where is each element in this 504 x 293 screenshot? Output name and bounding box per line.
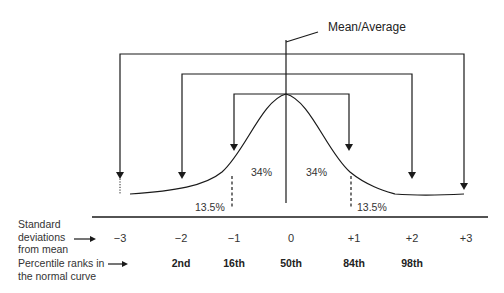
percentile-16th: 16th <box>223 257 245 269</box>
pr-label-line-2: the normal curve <box>18 270 104 283</box>
sd-value-plus2: +2 <box>406 232 419 244</box>
sd-value-minus2: −2 <box>175 232 188 244</box>
bracket-inner <box>234 94 349 144</box>
standard-deviations-row-label: Standard deviations from mean <box>18 218 68 256</box>
sd-label-line-3: from mean <box>18 243 68 256</box>
sd-value-minus1: −1 <box>228 232 241 244</box>
region-label-center-left: 34% <box>251 166 272 178</box>
region-label-outer-left: 13.5% <box>195 201 225 213</box>
region-label-center-right: 34% <box>306 166 327 178</box>
sd-value-plus1: +1 <box>348 232 361 244</box>
arrowhead-outer-left <box>116 172 124 179</box>
normal-curve-diagram <box>0 0 504 293</box>
arrowhead-pr-row <box>122 261 128 267</box>
pr-label-line-1: Percentile ranks in <box>18 257 104 270</box>
arrowhead-sd-row <box>90 236 96 242</box>
sd-value-minus3: −3 <box>114 232 127 244</box>
arrowhead-middle-left <box>178 172 186 179</box>
sd-value-0: 0 <box>288 232 294 244</box>
sd-label-line-2: deviations <box>18 231 68 244</box>
arrowhead-middle-right <box>408 172 416 179</box>
percentile-ranks-row-label: Percentile ranks in the normal curve <box>18 257 104 282</box>
sd-label-line-1: Standard <box>18 218 68 231</box>
arrowhead-outer-right <box>460 183 468 190</box>
mean-average-label: Mean/Average <box>328 21 406 34</box>
percentile-84th: 84th <box>343 257 365 269</box>
percentile-98th: 98th <box>401 257 423 269</box>
sd-value-plus3: +3 <box>460 232 473 244</box>
mean-leader-line <box>286 32 318 42</box>
arrowhead-inner-right <box>345 144 353 151</box>
arrowhead-inner-left <box>230 144 238 151</box>
bracket-middle <box>182 74 412 172</box>
percentile-2nd: 2nd <box>172 257 191 269</box>
bell-curve <box>130 94 464 195</box>
percentile-50th: 50th <box>280 257 302 269</box>
region-label-outer-right: 13.5% <box>357 201 387 213</box>
